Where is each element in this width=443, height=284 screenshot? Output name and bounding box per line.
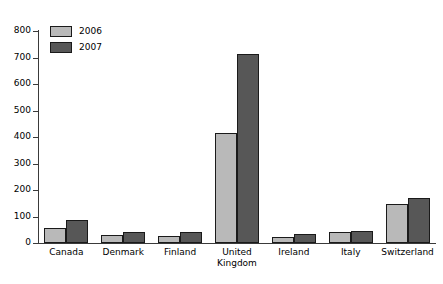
x-axis-category-label: Canada xyxy=(38,247,95,258)
bar xyxy=(44,228,66,243)
bar xyxy=(123,232,145,243)
plot-area xyxy=(38,30,436,243)
x-axis-category-label-line: Italy xyxy=(322,247,379,258)
x-axis-category-label-line: Switzerland xyxy=(379,247,436,258)
y-axis-tick-label-wrap: 300 xyxy=(0,159,31,168)
y-axis-tick-label: 100 xyxy=(1,212,31,221)
bar xyxy=(101,235,123,243)
x-axis-line xyxy=(38,243,436,244)
x-axis-category-label-line: Kingdom xyxy=(209,258,266,269)
bar-group xyxy=(158,30,202,243)
y-axis-tick-label: 400 xyxy=(1,132,31,141)
x-axis-category-label: Ireland xyxy=(265,247,322,258)
bar xyxy=(329,232,351,243)
x-axis-category-label-line: Denmark xyxy=(95,247,152,258)
x-axis-category-label: Switzerland xyxy=(379,247,436,258)
x-axis-category-label: Italy xyxy=(322,247,379,258)
bar xyxy=(180,232,202,243)
bar xyxy=(158,236,180,243)
bar xyxy=(237,54,259,243)
bar xyxy=(66,220,88,243)
y-axis-tick-label: 600 xyxy=(1,79,31,88)
x-axis-category-label: UnitedKingdom xyxy=(209,247,266,269)
bar-group xyxy=(101,30,145,243)
bar-group xyxy=(386,30,430,243)
y-axis-tick-label-wrap: 600 xyxy=(0,79,31,88)
y-axis-tick-label: 300 xyxy=(1,159,31,168)
x-axis-category-labels: CanadaDenmarkFinlandUnitedKingdomIreland… xyxy=(38,247,436,281)
x-axis-category-label-line: Canada xyxy=(38,247,95,258)
y-axis-tick-label-wrap: 0 xyxy=(0,238,31,247)
bar-group xyxy=(44,30,88,243)
x-axis-category-label: Denmark xyxy=(95,247,152,258)
y-axis-tick-label: 700 xyxy=(1,53,31,62)
x-axis-category-label-line: United xyxy=(209,247,266,258)
y-axis-tick-label-wrap: 700 xyxy=(0,53,31,62)
y-axis-tick-label: 500 xyxy=(1,106,31,115)
y-axis-tick-label-wrap: 200 xyxy=(0,185,31,194)
y-axis-tick-label-wrap: 100 xyxy=(0,212,31,221)
y-axis-tick-label: 800 xyxy=(1,26,31,35)
bar xyxy=(272,237,294,243)
x-axis-category-label: Finland xyxy=(152,247,209,258)
bar-group xyxy=(329,30,373,243)
bar xyxy=(215,133,237,243)
x-axis-category-label-line: Finland xyxy=(152,247,209,258)
bar xyxy=(351,231,373,243)
bar-group xyxy=(215,30,259,243)
y-axis-tick-label: 0 xyxy=(1,238,31,247)
bar-group xyxy=(272,30,316,243)
bar-chart: 0100200300400500600700800 20062007 Canad… xyxy=(0,0,443,284)
bar xyxy=(294,234,316,243)
bar xyxy=(408,198,430,243)
bar xyxy=(386,204,408,243)
y-axis-tick-label-wrap: 500 xyxy=(0,106,31,115)
x-axis-category-label-line: Ireland xyxy=(265,247,322,258)
y-axis-tick-label: 200 xyxy=(1,185,31,194)
y-axis-tick-label-wrap: 800 xyxy=(0,26,31,35)
y-axis-tick-label-wrap: 400 xyxy=(0,132,31,141)
